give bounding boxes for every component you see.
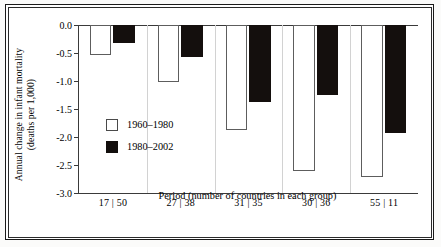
y-axis-tick-label: -0.5 xyxy=(56,48,72,59)
y-axis-title-line1: Annual change in infant mortality xyxy=(13,48,24,181)
bar-period-1960-1980 xyxy=(361,25,383,177)
legend: 1960–1980 1980–2002 xyxy=(106,118,173,162)
y-axis-tick xyxy=(74,53,79,54)
legend-item-1980-2002: 1980–2002 xyxy=(106,140,173,153)
y-axis-tick-label: 0.0 xyxy=(60,20,73,31)
legend-swatch-white-square xyxy=(106,119,118,131)
group-separator-line xyxy=(350,25,351,193)
bar-period-1980-2002 xyxy=(249,25,271,102)
bar-period-1960-1980 xyxy=(90,25,112,55)
legend-item-1960-1980: 1960–1980 xyxy=(106,118,173,131)
legend-swatch-black-square xyxy=(106,141,118,153)
legend-label: 1980–2002 xyxy=(127,141,173,152)
bar-period-1980-2002 xyxy=(181,25,203,57)
group-separator-line xyxy=(282,25,283,193)
bar-period-1980-2002 xyxy=(385,25,407,133)
y-axis-tick xyxy=(74,25,79,26)
y-axis-tick-label: -1.0 xyxy=(56,76,72,87)
bar-period-1960-1980 xyxy=(158,25,180,82)
x-axis-title: Period (number of countries in each grou… xyxy=(78,190,417,201)
y-axis-tick-label: -3.0 xyxy=(56,188,72,199)
bar-period-1980-2002 xyxy=(113,25,135,43)
bar-period-1980-2002 xyxy=(317,25,339,95)
y-axis-tick-label: -1.5 xyxy=(56,104,72,115)
group-separator-line xyxy=(215,25,216,193)
y-axis-title: Annual change in infant mortality (death… xyxy=(13,25,36,205)
y-axis-tick-label: -2.5 xyxy=(56,160,72,171)
y-axis-title-line2: (deaths per 1,000) xyxy=(24,25,36,205)
bar-period-1960-1980 xyxy=(293,25,315,171)
y-axis-tick-label: -2.0 xyxy=(56,132,72,143)
group-separator-line xyxy=(147,25,148,193)
plot-area: 0.0-0.5-1.0-1.5-2.0-2.5-3.0 17 | 5027 | … xyxy=(78,25,418,194)
bar-period-1960-1980 xyxy=(226,25,248,130)
legend-label: 1960–1980 xyxy=(127,119,173,130)
y-axis-tick xyxy=(74,109,79,110)
y-axis-tick xyxy=(74,165,79,166)
figure-container: Annual change in infant mortality (death… xyxy=(0,0,441,247)
y-axis-tick xyxy=(74,137,79,138)
y-axis-tick xyxy=(74,81,79,82)
